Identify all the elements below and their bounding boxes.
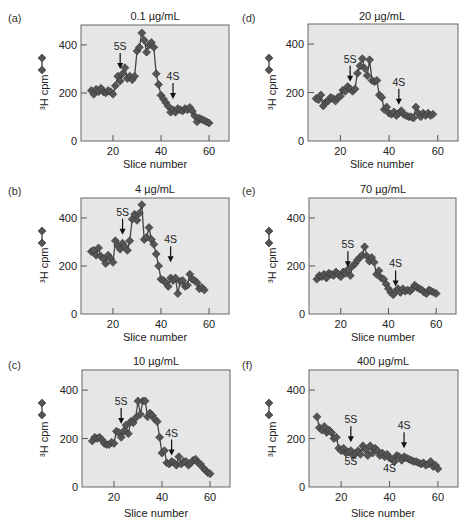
panel-letter: (f) [242,359,252,371]
y-tick-label: 200 [287,433,305,445]
plot-frame [308,24,458,141]
y-axis-label: ³H cpm [266,248,278,283]
legend-diamond-icon [38,54,46,62]
y-axis-label: ³H cpm [38,248,50,283]
y-tick-label: 0 [72,481,78,493]
x-tick-label: 60 [430,318,442,330]
annotation-label: 4S [165,427,178,439]
panel-c: 02004002040605S4S (c) 10 µg/mL Slice num… [0,345,235,520]
x-axis-label: Slice number [82,507,230,519]
x-tick-label: 60 [203,145,215,157]
y-tick-label: 400 [287,384,305,396]
x-tick-label: 20 [108,491,120,503]
legend-diamond-icon [38,66,46,74]
legend-diamond-icon [265,54,273,62]
annotation-label: 4S [383,462,396,474]
plot-area: 02004002040605S4S [0,345,235,526]
annotation-label: 4S [164,233,177,245]
x-tick-label: 40 [382,318,394,330]
annotation-label: 4S [392,76,405,88]
legend-diamond-icon [38,227,46,235]
legend-diamond-icon [38,399,46,407]
panel-a: 02004002040605S4S (a) 0.1 µg/mL Slice nu… [0,0,235,175]
y-tick-label: 0 [299,481,305,493]
panel-title: 4 µg/mL [81,183,229,195]
x-tick-label: 60 [203,318,215,330]
panel-b: 02004002040605S4S (b) 4 µg/mL Slice numb… [0,173,235,348]
x-tick-label: 20 [335,491,347,503]
legend-diamond-icon [265,66,273,74]
panel-letter: (e) [242,185,255,197]
y-tick-label: 0 [71,135,77,147]
legend-diamond-icon [265,399,273,407]
legend-diamond-icon [265,411,273,419]
x-tick-label: 20 [107,145,119,157]
x-tick-label: 40 [155,145,167,157]
y-axis-label: ³H cpm [266,422,278,457]
y-tick-label: 400 [287,212,305,224]
annotation-label: 4S [389,257,402,269]
panel-letter: (b) [8,185,21,197]
panel-title: 70 µg/mL [309,183,457,195]
x-tick-label: 60 [432,491,444,503]
x-axis-label: Slice number [308,158,456,170]
annotation-label: 4S [167,70,180,82]
panel-letter: (c) [8,359,21,371]
y-tick-label: 200 [287,260,305,272]
y-tick-label: 0 [71,308,77,320]
x-axis-label: Slice number [81,331,229,343]
annotation-label: 5S [341,238,354,250]
legend-diamond-icon [38,411,46,419]
x-tick-label: 20 [334,145,346,157]
x-tick-label: 20 [335,318,347,330]
y-tick-label: 400 [286,38,304,50]
x-tick-label: 40 [155,318,167,330]
annotation-label: 5S [116,206,129,218]
legend-diamond-icon [265,239,273,247]
y-tick-label: 200 [60,433,78,445]
annotation-label: 5S [114,40,127,52]
y-tick-label: 400 [60,384,78,396]
x-axis-label: Slice number [309,507,457,519]
y-axis-label: ³H cpm [38,422,50,457]
x-tick-label: 40 [383,491,395,503]
y-tick-label: 200 [59,87,77,99]
x-tick-label: 40 [156,491,168,503]
y-axis-label: ³H cpm [38,75,50,110]
y-tick-label: 400 [59,212,77,224]
x-tick-label: 60 [204,491,216,503]
plot-area: 02004002040605S4S [0,173,235,354]
panel-letter: (d) [242,12,255,24]
y-tick-label: 200 [286,87,304,99]
panel-title: 10 µg/mL [82,355,230,367]
x-tick-label: 40 [383,145,395,157]
annotation-label: 5S [115,395,128,407]
panel-letter: (a) [8,12,21,24]
y-tick-label: 200 [59,260,77,272]
x-tick-label: 60 [432,145,444,157]
panel-title: 400 µg/mL [309,355,457,367]
annotation-label: 4S [398,419,411,431]
x-tick-label: 20 [107,318,119,330]
panel-d: 02004002040605S4S (d) 20 µg/mL Slice num… [236,0,471,175]
panel-title: 0.1 µg/mL [81,10,229,22]
annotation-label: 5S [344,455,357,467]
annotation-label: 5S [344,53,357,65]
panel-title: 20 µg/mL [308,10,456,22]
legend-diamond-icon [38,239,46,247]
panel-e: 02004002040605S4S (e) 70 µg/mL Slice num… [236,173,471,348]
legend-diamond-icon [265,227,273,235]
x-axis-label: Slice number [309,331,457,343]
panel-f: 02004002040605S4S5S4S (f) 400 µg/mL Slic… [236,345,471,520]
annotation-label: 5S [344,413,357,425]
y-axis-label: ³H cpm [266,75,278,110]
x-axis-label: Slice number [81,158,229,170]
y-tick-label: 0 [299,308,305,320]
y-tick-label: 0 [298,135,304,147]
y-tick-label: 400 [59,39,77,51]
plot-area: 02004002040605S4S [0,0,235,181]
